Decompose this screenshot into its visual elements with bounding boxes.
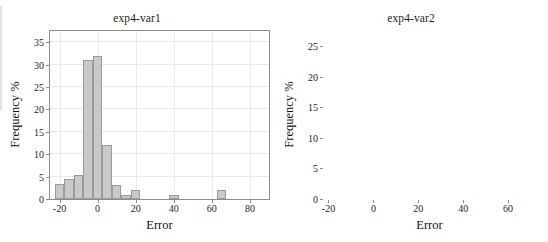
x-tick-mark [508,200,509,203]
y-tick-label: 10 [296,132,318,143]
y-tick-mark [46,154,49,155]
gridline-vertical [250,31,251,199]
gridline-vertical [212,31,213,199]
histogram-bar [102,145,112,199]
chart-title-right: exp4-var2 [274,12,548,24]
x-axis-title: Error [323,218,536,233]
y-tick-label: 25 [296,41,318,52]
y-axis-title: Frequency % [282,30,297,200]
histogram-bar [217,190,227,199]
x-tick-label: 40 [169,203,179,214]
x-tick-label: 20 [131,203,141,214]
y-tick-mark [320,168,323,169]
x-tick-mark [250,200,251,203]
x-tick-label: 80 [245,203,255,214]
histogram-bar [55,184,65,199]
y-tick-label: 0 [22,194,44,205]
x-tick-mark [60,200,61,203]
x-tick-label: 60 [207,203,217,214]
histogram-bar [64,179,74,199]
x-tick-label: -20 [53,203,66,214]
y-tick-label: 20 [296,71,318,82]
x-axis-title: Error [49,218,270,233]
y-tick-mark [46,199,49,200]
y-tick-label: 15 [296,102,318,113]
y-tick-mark [46,42,49,43]
gridline-vertical [136,31,137,199]
y-tick-mark [46,87,49,88]
y-tick-label: 20 [22,104,44,115]
y-tick-mark [320,138,323,139]
figure-page: exp4-var1 05101520253035-20020406080Erro… [0,0,548,242]
y-tick-mark [320,46,323,47]
gridline-horizontal [50,41,269,42]
y-tick-mark [320,107,323,108]
x-tick-mark [136,200,137,203]
y-tick-mark [46,132,49,133]
y-tick-label: 0 [296,194,318,205]
x-tick-label: 0 [371,203,376,214]
y-tick-mark [46,177,49,178]
histogram-bar [131,190,141,199]
x-tick-mark [328,200,329,203]
x-tick-mark [463,200,464,203]
histogram-bar [83,60,93,199]
x-tick-mark [418,200,419,203]
plot-area-left [49,30,270,200]
gridline-vertical [174,31,175,199]
histogram-bar [74,175,84,199]
x-tick-label: 20 [413,203,423,214]
chart-panel-exp4-var1: exp4-var1 05101520253035-20020406080Erro… [0,0,274,242]
y-tick-mark [320,77,323,78]
gridline-vertical [60,31,61,199]
x-tick-mark [98,200,99,203]
chart-title-left: exp4-var1 [0,12,274,24]
y-tick-label: 5 [22,171,44,182]
y-tick-label: 5 [296,163,318,174]
x-tick-label: -20 [322,203,335,214]
y-tick-label: 15 [22,126,44,137]
y-tick-label: 25 [22,82,44,93]
histogram-bar [93,56,103,199]
x-tick-mark [174,200,175,203]
x-tick-label: 0 [95,203,100,214]
y-tick-mark [46,65,49,66]
y-axis-title: Frequency % [8,30,23,200]
y-tick-label: 35 [22,37,44,48]
x-tick-mark [212,200,213,203]
y-tick-label: 10 [22,149,44,160]
histogram-bar [112,185,122,199]
chart-panel-exp4-var2: exp4-var2 0510152025-200204060ErrorFrequ… [274,0,548,242]
y-tick-mark [320,199,323,200]
x-tick-label: 60 [503,203,513,214]
x-tick-mark [373,200,374,203]
x-tick-label: 40 [458,203,468,214]
y-tick-mark [46,109,49,110]
histogram-bar [121,195,131,199]
y-tick-label: 30 [22,59,44,70]
histogram-bar [169,195,179,199]
